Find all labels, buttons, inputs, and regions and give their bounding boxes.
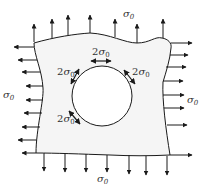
right-load-label: σ0 — [187, 94, 199, 107]
bottom-load-arrows — [44, 153, 167, 175]
left-load-label: σ0 — [3, 89, 15, 102]
top-load-label: σ0 — [123, 8, 135, 21]
circular-hole — [72, 66, 132, 126]
plate-with-hole-diagram: σ0 σ0 σ0 σ0 2σ0 2σ0 2σ0 2σ0 — [0, 0, 207, 188]
bottom-load-label: σ0 — [97, 173, 109, 186]
